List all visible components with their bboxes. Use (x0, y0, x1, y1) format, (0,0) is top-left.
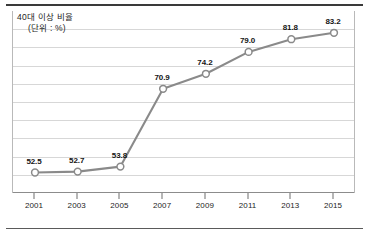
plot-area (12, 11, 355, 193)
x-axis-label: 2015 (324, 201, 342, 210)
data-point-label: 52.7 (69, 156, 84, 165)
x-axis-tick (34, 193, 35, 199)
data-point-marker[interactable] (203, 70, 210, 77)
data-point-label: 81.8 (283, 23, 298, 32)
data-point-label: 79.0 (240, 36, 255, 45)
data-point-marker[interactable] (245, 49, 252, 56)
x-axis-label: 2005 (110, 201, 128, 210)
data-point-marker[interactable] (160, 85, 167, 92)
data-point-marker[interactable] (117, 163, 124, 170)
x-axis-tick (119, 193, 120, 199)
x-axis-tick (204, 193, 205, 199)
x-axis-tick (76, 193, 77, 199)
data-point-label: 53.8 (112, 151, 127, 160)
x-axis-label: 2007 (153, 201, 171, 210)
data-point-marker[interactable] (331, 29, 338, 36)
bottom-rule (6, 228, 363, 229)
data-point-marker[interactable] (288, 36, 295, 43)
x-axis-tick (290, 193, 291, 199)
page-title: 40대 이상 비율 (17, 12, 73, 23)
x-axis-tick (247, 193, 248, 199)
x-axis-label: 2011 (239, 201, 257, 210)
data-point-marker[interactable] (32, 169, 39, 176)
x-axis-tick (333, 193, 334, 199)
data-point-label: 52.5 (26, 157, 41, 166)
data-point-label: 83.2 (325, 17, 340, 26)
x-axis-label: 2009 (196, 201, 214, 210)
series-group (13, 11, 356, 193)
data-point-marker[interactable] (74, 168, 81, 175)
chart-title-block: 40대 이상 비율 (단위 : %) (17, 12, 73, 33)
x-axis-label: 2013 (281, 201, 299, 210)
x-axis-label: 2001 (25, 201, 43, 210)
series-line (35, 33, 334, 173)
data-point-label: 70.9 (155, 73, 170, 82)
chart-figure: 40대 이상 비율 (단위 : %) 52.552.753.870.974.27… (0, 0, 369, 236)
top-rule (6, 4, 363, 6)
x-axis-label: 2003 (68, 201, 86, 210)
chart-unit-label: (단위 : %) (17, 23, 73, 34)
x-axis-tick (162, 193, 163, 199)
data-point-label: 74.2 (197, 58, 212, 67)
